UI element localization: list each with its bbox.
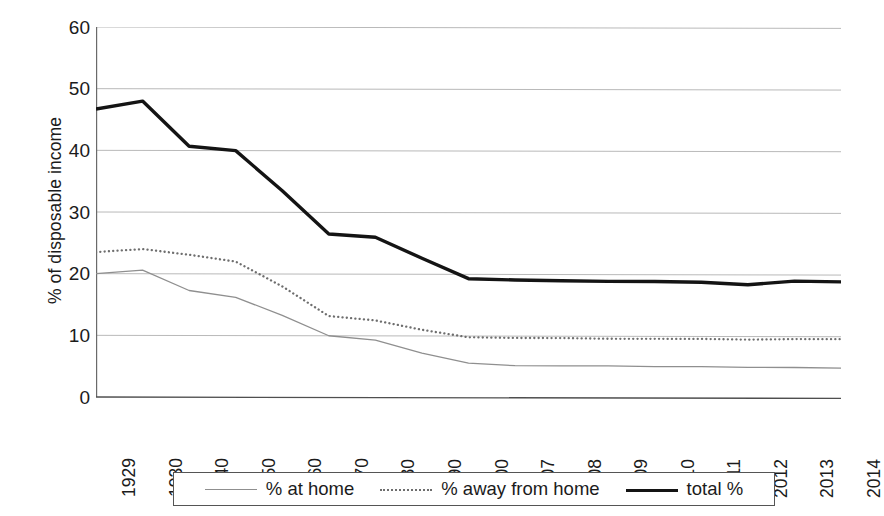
x-axis-tick-label: 1929: [121, 458, 139, 516]
y-axis-tick-label: 40: [46, 141, 90, 160]
y-axis-tick-label: 50: [46, 79, 90, 98]
x-axis-tick-label: 2014: [866, 459, 884, 516]
gridline: [96, 335, 841, 336]
plot-area: [96, 27, 841, 397]
legend-label-total: total %: [687, 480, 744, 499]
y-axis-tick-label: 30: [46, 203, 90, 222]
x-axis-tick-label: 2012: [773, 459, 791, 516]
data-series-lines: [96, 101, 841, 368]
legend-item-at-home[interactable]: % at home: [205, 480, 354, 499]
y-axis-tick-labels: 6050403020100: [38, 0, 90, 420]
x-axis-tick-label: 2013: [819, 459, 837, 516]
y-axis-tick-label: 60: [46, 18, 90, 37]
series-line-away-from-home: [96, 249, 841, 340]
x-axis-line: [96, 397, 841, 398]
legend-label-away-from-home: % away from home: [441, 480, 599, 499]
chart-legend: % at home % away from home total %: [173, 472, 775, 506]
dotted-line-swatch-icon: [380, 484, 432, 494]
y-axis-tick-label: 10: [46, 326, 90, 345]
y-axis-tick-label: 0: [46, 388, 90, 407]
plot-svg: [96, 27, 841, 399]
gridline: [96, 150, 841, 151]
gridline: [96, 27, 841, 28]
y-axis-tick-label: 20: [46, 264, 90, 283]
gridline: [96, 212, 841, 213]
thin-line-swatch-icon: [205, 484, 257, 494]
x-axis-tick-labels: 1929193019401950196019701980199020002007…: [96, 400, 841, 462]
legend-item-total[interactable]: total %: [626, 480, 744, 499]
gridlines: [96, 27, 841, 337]
legend-label-at-home: % at home: [266, 480, 354, 499]
gridline: [96, 274, 841, 275]
gridline: [96, 89, 841, 90]
legend-item-away-from-home[interactable]: % away from home: [380, 480, 599, 499]
thick-line-swatch-icon: [626, 484, 678, 494]
